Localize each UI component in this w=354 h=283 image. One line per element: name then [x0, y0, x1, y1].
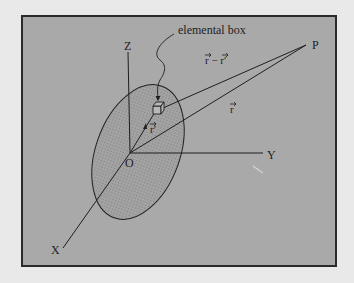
diagram-figure: elemental box Z Y X O P r − r′ r r′ — [0, 0, 354, 283]
origin-label: O — [125, 156, 134, 170]
axis-y-label: Y — [267, 148, 276, 162]
elemental-box-cube-icon — [153, 102, 164, 114]
axis-x-label: X — [51, 243, 60, 257]
vector-r-minus-r-prime-label: r − r′ — [205, 53, 228, 66]
axis-z-label: Z — [124, 39, 131, 53]
elemental-box-label: elemental box — [178, 23, 246, 37]
svg-text:r: r — [230, 103, 234, 115]
svg-text:r − r′: r − r′ — [205, 54, 226, 66]
vector-r-prime-label: r′ — [150, 122, 156, 135]
point-p-label: P — [312, 38, 319, 52]
